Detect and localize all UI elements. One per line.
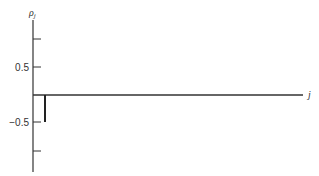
y-axis-label: ρj	[28, 7, 36, 20]
x-axis-label: j	[306, 89, 311, 100]
y-axis-label-sub: j	[33, 12, 36, 20]
y-tick-label-neg0.5: −0.5	[9, 117, 29, 128]
y-tick-label-0.5: 0.5	[15, 62, 29, 73]
acf-chart: 0.5 −0.5 ρj j	[0, 0, 319, 176]
